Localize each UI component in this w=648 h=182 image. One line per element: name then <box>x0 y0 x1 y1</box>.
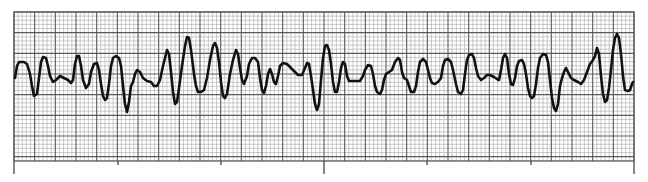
ecg-time-markers <box>14 161 634 174</box>
ecg-rhythm-strip <box>0 0 648 182</box>
